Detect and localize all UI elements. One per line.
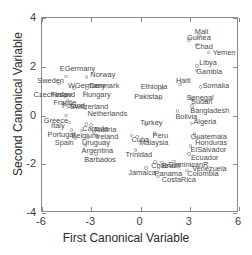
data-point-label: Haiti <box>176 77 191 84</box>
data-point-label: Finland <box>51 91 75 98</box>
y-axis-title: Second Canonical Variable <box>11 4 25 204</box>
data-point-label: Trinidad <box>126 151 152 158</box>
x-tick-mark-top <box>91 18 92 22</box>
data-point-label: Mali <box>195 28 209 35</box>
data-point-label: Denmark <box>89 82 119 89</box>
data-point-label: Algeria <box>193 118 216 125</box>
data-point-label: Libya <box>199 59 217 66</box>
data-point-label: Ethiopia <box>141 83 168 90</box>
x-tick-mark <box>239 207 240 211</box>
x-tick-label: 3 <box>186 215 192 227</box>
data-point-label: Malaysia <box>139 139 168 146</box>
data-point-label: Netherlands <box>88 110 128 117</box>
data-point-label: Yemen <box>213 49 236 56</box>
x-tick-mark-top <box>190 18 191 22</box>
y-tick-mark-right <box>233 164 237 165</box>
data-point-label: Norway <box>90 71 115 78</box>
x-tick-mark <box>141 207 142 211</box>
x-tick-label: 6 <box>235 215 241 227</box>
x-tick-label: 0 <box>136 215 142 227</box>
x-axis-title: First Canonical Variable <box>0 231 252 245</box>
data-point-label: Colombia <box>187 170 218 177</box>
data-point <box>67 121 71 125</box>
data-point-label: Sudan <box>191 98 212 105</box>
plot-area: EGermanySwedenNorwayWGermanyDenmarkHunga… <box>41 17 238 212</box>
data-point-label: Barbados <box>84 156 116 163</box>
data-point-label: Jamaica <box>128 169 156 176</box>
data-point-label: Somalia <box>202 82 229 89</box>
y-tick-label: 0 <box>36 109 42 121</box>
data-point-label: Chad <box>195 43 213 50</box>
y-tick-label: -2 <box>36 157 46 169</box>
y-tick-label: -4 <box>36 206 46 218</box>
data-point-label: Sweden <box>37 77 64 84</box>
y-tick-mark-right <box>233 116 237 117</box>
y-tick-mark-right <box>233 213 237 214</box>
data-point-label: Italy <box>51 122 65 129</box>
y-tick-label: 2 <box>36 60 42 72</box>
data-point <box>64 75 68 79</box>
data-point-label: Spain <box>55 139 74 146</box>
data-point-label: Gambia <box>196 68 222 75</box>
y-tick-mark-right <box>233 18 237 19</box>
x-tick-mark-top <box>239 18 240 22</box>
y-tick-label: 4 <box>36 11 42 23</box>
data-point-label: Pakistan <box>134 93 162 100</box>
x-tick-label: -3 <box>85 215 95 227</box>
data-point <box>85 75 89 79</box>
y-tick-mark <box>42 18 46 19</box>
x-tick-mark <box>91 207 92 211</box>
data-point <box>207 51 211 55</box>
data-point-label: Peru <box>152 132 168 139</box>
y-tick-mark-right <box>233 67 237 68</box>
data-point-label: Turkey <box>140 119 162 126</box>
x-tick-mark-top <box>141 18 142 22</box>
y-tick-mark <box>42 67 46 68</box>
data-point-label: Hungary <box>83 91 111 98</box>
x-tick-mark <box>190 207 191 211</box>
data-point <box>156 175 160 179</box>
canonical-variable-scatter-plot: EGermanySwedenNorwayWGermanyDenmarkHunga… <box>0 0 252 255</box>
